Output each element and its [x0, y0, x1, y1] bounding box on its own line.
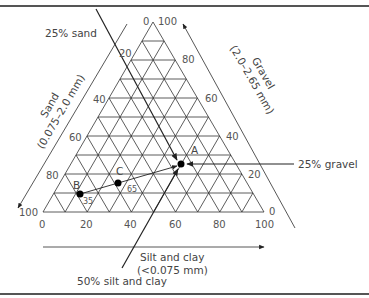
sand-tick-40: 40: [93, 94, 106, 105]
silt-tick-100: 100: [255, 219, 274, 230]
silt-tick-20: 20: [80, 219, 93, 230]
gravel-tick-0: 0: [269, 206, 275, 217]
point-b-label: B: [73, 179, 80, 191]
sand-tick-80: 80: [46, 170, 59, 181]
gravel-tick-60: 60: [205, 93, 218, 104]
sand-tick-100: 100: [19, 207, 38, 218]
annotation-25-gravel: 25% gravel: [298, 158, 358, 170]
silt-clay-axis-title: Silt and clay: [140, 251, 204, 263]
point-c: [115, 180, 122, 187]
ternary-diagram: A B C 35 65 20 40 60 80 100 0 100 80 60 …: [0, 0, 369, 298]
silt-tick-60: 60: [169, 219, 182, 230]
segment-label-35: 35: [83, 197, 93, 206]
annotation-25-sand: 25% sand: [45, 27, 97, 39]
gravel-tick-80: 80: [182, 54, 195, 65]
point-a-label: A: [191, 144, 199, 156]
annotation-50-silt-clay: 50% silt and clay: [77, 275, 167, 287]
gravel-axis-title: Gravel (2.0–2.65 mm): [228, 37, 288, 116]
silt-tick-80: 80: [213, 219, 226, 230]
gravel-tick-40: 40: [226, 131, 239, 142]
point-a: [178, 161, 185, 168]
apex-tick-0: 0: [143, 16, 149, 27]
sand-tick-20: 20: [119, 48, 132, 59]
gravel-tick-100: 100: [158, 16, 177, 27]
silt-tick-0: 0: [39, 219, 45, 230]
point-c-label: C: [116, 165, 123, 177]
gravel-tick-20: 20: [248, 169, 261, 180]
sand-tick-60: 60: [69, 132, 82, 143]
silt-tick-40: 40: [124, 219, 137, 230]
segment-label-65: 65: [127, 185, 137, 194]
